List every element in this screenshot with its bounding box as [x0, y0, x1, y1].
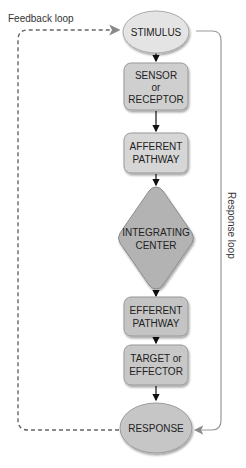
svg-text:PATHWAY: PATHWAY	[133, 318, 180, 329]
svg-text:PATHWAY: PATHWAY	[133, 154, 180, 165]
svg-text:TARGET or: TARGET or	[130, 353, 182, 364]
node-integrating-center: INTEGRATING CENTER	[119, 187, 194, 289]
svg-text:AFFERENT: AFFERENT	[130, 141, 183, 152]
feedback-loop-connector	[18, 30, 119, 430]
node-efferent-pathway: EFFERENT PATHWAY	[124, 297, 188, 336]
svg-text:EFFERENT: EFFERENT	[130, 305, 183, 316]
svg-text:STIMULUS: STIMULUS	[131, 27, 182, 38]
svg-text:RECEPTOR: RECEPTOR	[128, 94, 183, 105]
node-afferent-pathway: AFFERENT PATHWAY	[124, 133, 188, 173]
svg-text:EFFECTOR: EFFECTOR	[129, 366, 183, 377]
node-response: RESPONSE	[120, 403, 192, 453]
response-loop-label: Response loop	[226, 192, 237, 259]
node-target-effector: TARGET or EFFECTOR	[124, 345, 188, 385]
svg-text:CENTER: CENTER	[135, 240, 176, 251]
svg-text:INTEGRATING: INTEGRATING	[122, 227, 190, 238]
reflex-pathway-diagram: Feedback loop Response loop STIMULUS SEN…	[0, 0, 246, 468]
response-loop-connector	[195, 31, 221, 430]
node-stimulus: STIMULUS	[123, 11, 189, 53]
node-sensor-receptor: SENSOR or RECEPTOR	[124, 63, 188, 110]
svg-text:SENSOR: SENSOR	[135, 70, 177, 81]
svg-text:or: or	[152, 82, 162, 93]
feedback-loop-label: Feedback loop	[8, 13, 74, 24]
svg-text:RESPONSE: RESPONSE	[128, 423, 184, 434]
